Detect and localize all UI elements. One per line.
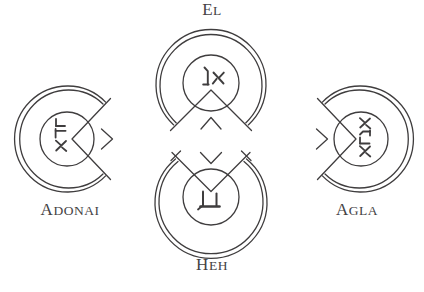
label-heh: HEH [142,255,282,275]
sigil-adonai-crosslet [102,129,113,149]
label-agla-rest: GLA [349,203,378,218]
sigil-agla[interactable] [317,86,414,192]
sigil-adonai-core-circle [40,112,94,166]
sigil-el-hebrew [203,68,224,85]
label-el: EL [0,0,424,20]
label-adonai: ADONAI [0,200,140,220]
sigil-agla-hebrew [360,118,370,156]
label-adonai-lead: A [41,200,54,219]
sigil-heh-outer-ring [155,159,267,258]
label-heh-rest: EH [209,258,228,273]
sigil-el[interactable] [156,29,266,130]
label-el-lead: E [202,0,213,19]
sigil-heh-core-circle [183,169,239,225]
sigil-heh-hebrew [198,192,220,210]
sigil-agla-chevron [318,99,357,180]
sigil-plate: EL ADONAI AGLA HEH [0,0,424,292]
sigil-el-inner-ring [160,35,262,123]
sigil-el-chevron [171,90,252,131]
sigil-el-core-circle [183,55,239,111]
sigil-heh[interactable] [155,151,267,258]
sigil-el-crosslet [201,118,221,130]
sigil-diagram [0,0,424,292]
label-agla: AGLA [290,200,424,220]
sigil-adonai[interactable] [15,86,113,192]
sigil-adonai-hebrew [56,119,67,151]
sigil-adonai-outer-ring [15,86,106,192]
sigil-agla-inner-ring [325,90,408,188]
label-heh-lead: H [196,255,209,274]
label-adonai-rest: DONAI [53,203,99,218]
sigil-agla-outer-ring [322,86,413,192]
sigil-heh-crosslet [201,153,222,164]
sigil-heh-chevron [172,153,250,192]
label-el-rest: L [213,3,222,18]
sigil-adonai-chevron [72,99,111,180]
sigil-agla-crosslet [317,129,328,149]
label-agla-lead: A [336,200,349,219]
sigil-adonai-inner-ring [20,90,103,188]
